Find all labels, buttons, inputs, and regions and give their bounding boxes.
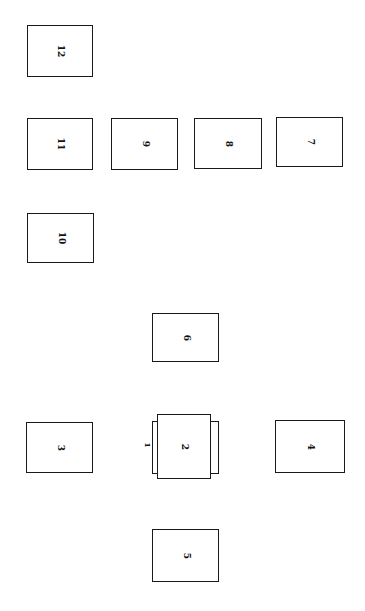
- box-12: 12: [27, 25, 93, 77]
- box-label: 3: [55, 444, 64, 450]
- box-label: 12: [56, 45, 65, 58]
- box-9: 9: [111, 118, 178, 170]
- running-title: [120, 0, 250, 2]
- box-4: 4: [275, 420, 345, 473]
- box-6: 6: [152, 313, 219, 362]
- box-11: 11: [27, 118, 93, 170]
- box-label: 7: [305, 139, 314, 145]
- box-label: 8: [224, 140, 233, 146]
- box-1-label: 1: [144, 442, 152, 448]
- box-5: 5: [152, 529, 219, 582]
- box-10: 10: [27, 213, 94, 263]
- box-label: 6: [181, 334, 190, 340]
- box-label: 9: [140, 141, 149, 147]
- box-label: 10: [56, 232, 65, 245]
- box-label: 4: [306, 443, 315, 449]
- box-7: 7: [276, 117, 343, 167]
- box-label: 5: [181, 552, 190, 558]
- box-2: 2: [157, 414, 211, 479]
- box-label: 11: [56, 138, 65, 151]
- box-label: 2: [180, 443, 189, 449]
- box-8: 8: [194, 118, 262, 169]
- box-3: 3: [26, 422, 93, 473]
